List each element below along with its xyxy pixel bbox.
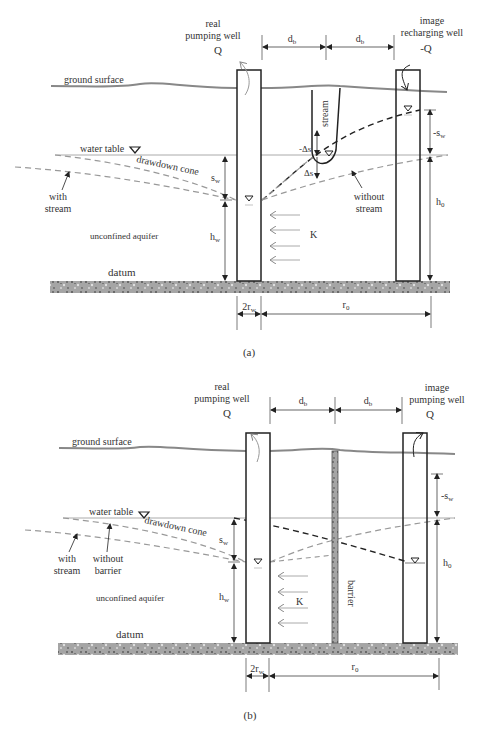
water-table-label: water table [80, 143, 125, 154]
image-well-level-icon [411, 558, 419, 563]
neg-delta-s-label: -Δs [299, 144, 312, 154]
image-well-q-label: Q [426, 408, 434, 420]
with-stream-label-1: with [49, 191, 67, 202]
flow-arrows [278, 576, 308, 623]
s-w-label: sw [211, 172, 221, 185]
with-stream-label-2: stream [45, 203, 72, 214]
image-well-inflow-arrow [402, 65, 410, 90]
water-table-label: water table [89, 506, 134, 517]
without-stream-label-2: stream [356, 203, 383, 214]
image-well-casing [403, 433, 427, 643]
with-stream-label-1: with [58, 553, 76, 564]
unconfined-aquifer-label: unconfined aquifer [96, 593, 164, 603]
drawdown-cone-label: drawdown cone [136, 153, 201, 177]
datum-base [58, 643, 458, 655]
datum-label: datum [108, 266, 136, 278]
r-0-label: r0 [343, 299, 350, 312]
image-well-label-2: pumping well [409, 394, 464, 405]
without-stream-label-1: without [354, 191, 385, 202]
k-label: K [296, 596, 304, 607]
image-well-label-1: image [425, 382, 450, 393]
k-label: K [310, 229, 318, 240]
d-b-label-2: db [356, 33, 365, 46]
caption-a: (a) [243, 346, 256, 359]
d-b-label-2: db [364, 395, 373, 408]
datum-label: datum [116, 628, 144, 640]
with-stream-label-2: stream [54, 565, 81, 576]
caption-b: (b) [244, 709, 257, 722]
without-barrier-label-1: without [93, 553, 124, 564]
h-w-label: hw [219, 591, 230, 604]
r-0-label: r0 [352, 661, 359, 674]
image-well-casing [396, 70, 420, 281]
two-r-w-label: 2rw [242, 301, 256, 314]
real-well-q-label: Q [214, 44, 222, 56]
real-well-label-1: real [206, 18, 221, 29]
image-well-q-label: -Q [420, 42, 432, 54]
d-b-label-1: db [299, 395, 308, 408]
two-r-w-label: 2rw [250, 663, 264, 676]
ground-surface-label: ground surface [64, 74, 124, 85]
neg-s-w-label: -sw [433, 127, 446, 140]
image-well-label-1: image [420, 15, 445, 26]
image-well-level-icon [404, 106, 412, 111]
real-well-label-2: pumping well [185, 30, 240, 41]
panel-a: ground surface water table drawdown cone… [15, 15, 463, 359]
real-well-casing [246, 433, 270, 643]
barrier-label: barrier [346, 580, 357, 607]
diagram-canvas: ground surface water table drawdown cone… [0, 0, 488, 734]
real-well-casing [237, 70, 261, 281]
real-well-q-label: Q [223, 407, 231, 419]
image-well-label-2: recharging well [401, 27, 464, 38]
without-stream-pointer [352, 171, 362, 188]
real-well-label-1: real [215, 381, 230, 392]
panel-b: ground surface water table drawdown cone… [25, 381, 465, 722]
with-stream-pointer [62, 172, 69, 190]
stream-label: stream [319, 100, 330, 127]
h-0-label: h0 [436, 196, 445, 209]
barrier-wall [332, 451, 338, 643]
ground-surface-label: ground surface [72, 436, 132, 447]
neg-s-w-label: -sw [441, 490, 454, 503]
datum-base [50, 281, 450, 293]
unconfined-aquifer-label: unconfined aquifer [90, 231, 158, 241]
flow-arrows [270, 215, 300, 260]
without-barrier-label-2: barrier [95, 565, 122, 576]
delta-s-label: Δs [304, 168, 314, 178]
s-w-label: sw [219, 534, 229, 547]
h-w-label: hw [210, 231, 221, 244]
water-table-symbol-icon [130, 147, 140, 153]
d-b-label-1: db [288, 33, 297, 46]
real-well-label-2: pumping well [194, 393, 249, 404]
h-0-label: h0 [443, 557, 452, 570]
